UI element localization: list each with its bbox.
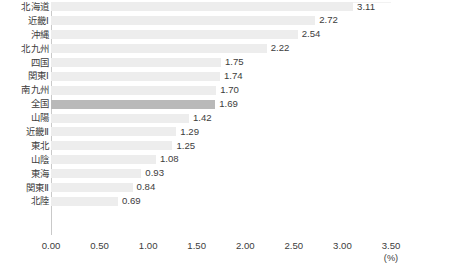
bar <box>51 2 353 11</box>
category-label: 四国 <box>0 56 49 70</box>
bar-value-label: 1.69 <box>215 98 238 110</box>
bar-track <box>51 16 315 25</box>
bar-row: 東海0.93 <box>0 167 457 181</box>
category-label: 関東Ⅰ <box>0 69 49 83</box>
category-label: 関東Ⅱ <box>0 181 49 195</box>
bar-track <box>51 197 118 206</box>
bar-row: 北海道3.11 <box>0 0 457 14</box>
category-label: 北陸 <box>0 194 49 208</box>
bar-rows: 北海道3.11近畿Ⅰ2.72沖縄2.54北九州2.22四国1.75関東Ⅰ1.74… <box>0 0 457 208</box>
category-label: 近畿Ⅰ <box>0 14 49 28</box>
bar-row: 沖縄2.54 <box>0 28 457 42</box>
category-label: 山陽 <box>0 111 49 125</box>
bar-row: 山陰1.08 <box>0 153 457 167</box>
bar-track <box>51 155 156 164</box>
bar <box>51 127 176 136</box>
bar-value-label: 0.84 <box>133 181 156 193</box>
bar <box>51 141 172 150</box>
category-label: 近畿Ⅱ <box>0 125 49 139</box>
bar-track <box>51 169 141 178</box>
bar-value-label: 1.42 <box>189 112 212 124</box>
bar-row: 近畿Ⅱ1.29 <box>0 125 457 139</box>
bar <box>51 183 133 192</box>
bar-track <box>51 183 133 192</box>
bar <box>51 16 315 25</box>
bar-track <box>51 141 172 150</box>
bar-value-label: 1.25 <box>172 140 195 152</box>
x-axis-tick-label: 3.50 <box>361 240 421 252</box>
category-label: 北海道 <box>0 0 49 14</box>
bar-row: 全国1.69 <box>0 97 457 111</box>
bar-track <box>51 127 176 136</box>
bar-track <box>51 72 220 81</box>
bar-value-label: 2.72 <box>315 14 338 26</box>
bar-value-label: 1.74 <box>220 70 243 82</box>
category-label: 山陰 <box>0 153 49 167</box>
bar-value-label: 0.69 <box>118 195 141 207</box>
bar <box>51 44 267 53</box>
bar-row: 東北1.25 <box>0 139 457 153</box>
category-label: 北九州 <box>0 42 49 56</box>
bar-value-label: 2.54 <box>298 28 321 40</box>
category-label: 東海 <box>0 167 49 181</box>
bar-row: 南九州1.70 <box>0 83 457 97</box>
bar <box>51 58 221 67</box>
bar-row: 関東Ⅱ0.84 <box>0 181 457 195</box>
bar <box>51 30 298 39</box>
bar-value-label: 1.75 <box>221 56 244 68</box>
category-label: 南九州 <box>0 83 49 97</box>
bar-track <box>51 58 221 67</box>
bar <box>51 86 216 95</box>
bar-track <box>51 114 189 123</box>
bar-row: 山陽1.42 <box>0 111 457 125</box>
bar-track <box>51 86 216 95</box>
bar-value-label: 2.22 <box>267 42 290 54</box>
bar-track <box>51 2 353 11</box>
category-label: 東北 <box>0 139 49 153</box>
x-axis: 0.000.501.001.502.002.503.003.50(%) <box>0 236 457 270</box>
bar-track <box>51 100 215 109</box>
bar-value-label: 0.93 <box>141 167 164 179</box>
bar-row: 近畿Ⅰ2.72 <box>0 14 457 28</box>
bar-row: 北九州2.22 <box>0 42 457 56</box>
x-axis-unit-label: (%) <box>361 252 421 264</box>
bar-value-label: 3.11 <box>353 1 375 13</box>
bar-track <box>51 44 267 53</box>
category-label: 沖縄 <box>0 28 49 42</box>
bar <box>51 197 118 206</box>
bar <box>51 72 220 81</box>
bar-row: 四国1.75 <box>0 56 457 70</box>
bar-highlighted <box>51 100 215 109</box>
bar-row: 北陸0.69 <box>0 194 457 208</box>
bar-track <box>51 30 298 39</box>
bar <box>51 169 141 178</box>
bar <box>51 114 189 123</box>
bar-chart: 北海道3.11近畿Ⅰ2.72沖縄2.54北九州2.22四国1.75関東Ⅰ1.74… <box>0 0 457 270</box>
bar-value-label: 1.70 <box>216 84 239 96</box>
bar-value-label: 1.08 <box>156 153 179 165</box>
bar <box>51 155 156 164</box>
category-label: 全国 <box>0 97 49 111</box>
bar-row: 関東Ⅰ1.74 <box>0 69 457 83</box>
bar-value-label: 1.29 <box>176 126 199 138</box>
